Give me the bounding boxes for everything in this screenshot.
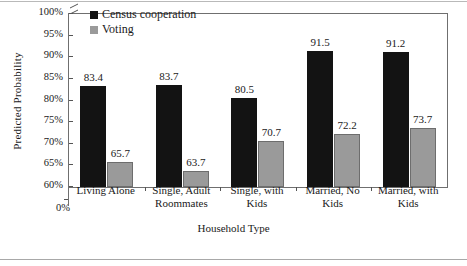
x-axis-tick-label: Married, withKids — [370, 184, 446, 210]
y-axis-tick-label: 60% — [44, 179, 63, 190]
x-axis-tick-label: Single, AdultRoommates — [144, 184, 220, 210]
bar-census-cooperation[interactable]: 83.4 — [80, 86, 106, 187]
x-axis-label-line: Single, Adult — [144, 184, 220, 197]
bar-census-cooperation[interactable]: 83.7 — [156, 85, 182, 188]
bar-value-label: 72.2 — [337, 119, 356, 131]
bar-census-cooperation[interactable]: 91.5 — [307, 51, 333, 187]
bar-value-label: 83.7 — [159, 70, 178, 82]
bar-group: 91.572.2 — [296, 14, 372, 187]
bar-group: 83.763.7 — [145, 14, 221, 187]
chart-legend: Census cooperationVoting — [90, 7, 196, 37]
y-axis-tick-label: 65% — [44, 157, 63, 168]
legend-swatch-icon — [90, 26, 98, 34]
x-axis-label-line: Kids — [219, 197, 295, 210]
y-axis-tick-label: 75% — [44, 114, 63, 125]
bar-census-cooperation[interactable]: 80.5 — [231, 98, 257, 187]
bar-group: 83.465.7 — [69, 14, 145, 187]
bar-value-label: 80.5 — [235, 83, 254, 95]
bar-groups: 83.465.783.763.780.570.791.572.291.273.7 — [69, 14, 447, 187]
x-axis-label-line: Married, with — [370, 184, 446, 197]
bar-value-label: 65.7 — [111, 147, 130, 159]
legend-swatch-icon — [90, 11, 98, 19]
x-axis-tick-label: Living Alone — [68, 184, 144, 197]
legend-label: Census cooperation — [102, 7, 196, 22]
legend-item[interactable]: Census cooperation — [90, 7, 196, 22]
y-axis-tick-label: 80% — [44, 93, 63, 104]
y-axis-tick-label: 85% — [44, 71, 63, 82]
x-axis-label-line: Kids — [370, 197, 446, 210]
bar-group: 80.570.7 — [220, 14, 296, 187]
plot-area: 100%95%90%85%80%75%70%65%60% 83.465.783.… — [68, 13, 448, 188]
bar-value-label: 73.7 — [413, 113, 432, 125]
bar-value-label: 63.7 — [186, 156, 205, 168]
y-axis-tick-label: 90% — [44, 49, 63, 60]
x-axis-label-line: Kids — [295, 197, 371, 210]
bar-census-cooperation[interactable]: 91.2 — [383, 52, 409, 187]
bar-voting[interactable]: 70.7 — [258, 141, 284, 187]
bar-value-label: 91.2 — [386, 37, 405, 49]
x-axis-tick-label: Married, NoKids — [295, 184, 371, 210]
x-axis-label-line: Living Alone — [68, 184, 144, 197]
y-axis-tick-label: 95% — [44, 28, 63, 39]
legend-label: Voting — [102, 22, 134, 37]
x-axis-tick-label: Single, withKids — [219, 184, 295, 210]
x-axis-title: Household Type — [0, 222, 467, 234]
x-axis-label-line: Roommates — [144, 197, 220, 210]
bar-chart-figure: Predicted Probability 100%95%90%85%80%75… — [0, 0, 467, 258]
bottom-divider-rule — [0, 259, 467, 260]
legend-item[interactable]: Voting — [90, 22, 196, 37]
x-axis-label-line: Married, No — [295, 184, 371, 197]
y-axis-tick-label: 70% — [44, 136, 63, 147]
bar-value-label: 70.7 — [262, 126, 281, 138]
bar-value-label: 83.4 — [84, 71, 103, 83]
x-axis-label-line: Single, with — [219, 184, 295, 197]
bar-value-label: 91.5 — [310, 36, 329, 48]
bar-voting[interactable]: 73.7 — [410, 128, 436, 187]
y-axis-tick-label: 100% — [39, 6, 64, 17]
bar-group: 91.273.7 — [371, 14, 447, 187]
bar-voting[interactable]: 72.2 — [334, 134, 360, 187]
y-axis-title: Predicted Probability — [11, 16, 23, 186]
